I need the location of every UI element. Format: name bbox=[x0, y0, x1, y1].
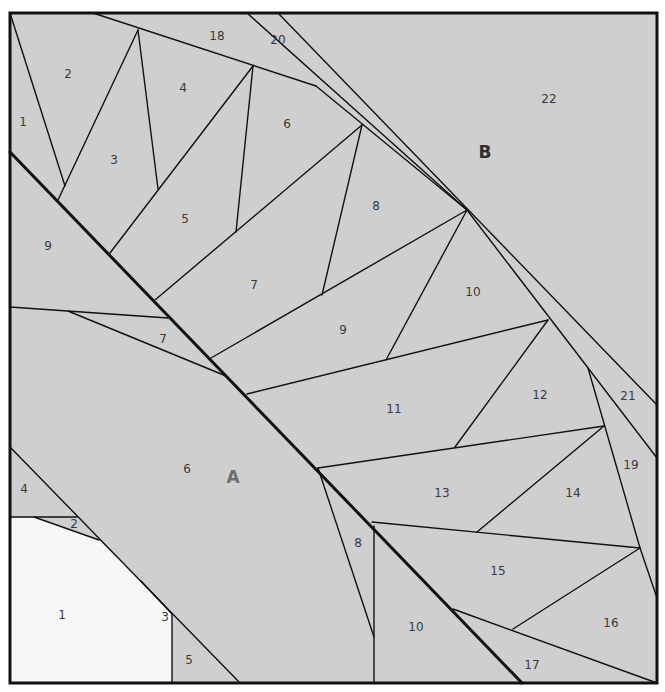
piece-label-b4: 4 bbox=[179, 81, 187, 95]
piece-label-a2: 2 bbox=[70, 517, 78, 531]
piece-label-a8: 8 bbox=[354, 536, 362, 550]
piece-label-b16: 16 bbox=[603, 616, 618, 630]
quilt-pattern-diagram: 1234567891011121314151617181920212297642… bbox=[0, 0, 665, 692]
piece-label-b14: 14 bbox=[565, 486, 580, 500]
section-label-a: A bbox=[226, 467, 240, 487]
piece-label-b18: 18 bbox=[209, 29, 224, 43]
piece-label-b2: 2 bbox=[64, 67, 72, 81]
piece-label-b6: 6 bbox=[283, 117, 291, 131]
piece-label-b1: 1 bbox=[19, 115, 27, 129]
piece-label-a5: 5 bbox=[185, 653, 193, 667]
piece-label-b11: 11 bbox=[386, 402, 401, 416]
piece-label-a9: 9 bbox=[44, 239, 52, 253]
piece-label-a4: 4 bbox=[20, 482, 28, 496]
piece-label-b12: 12 bbox=[532, 388, 547, 402]
piece-label-a1: 1 bbox=[58, 608, 66, 622]
piece-label-b9: 9 bbox=[339, 323, 347, 337]
piece-label-b20: 20 bbox=[270, 33, 285, 47]
piece-label-a10: 10 bbox=[408, 620, 423, 634]
piece-label-a6: 6 bbox=[183, 462, 191, 476]
piece-label-b19: 19 bbox=[623, 458, 638, 472]
piece-label-b15: 15 bbox=[490, 564, 505, 578]
piece-label-b21: 21 bbox=[620, 389, 635, 403]
piece-label-a3: 3 bbox=[161, 610, 169, 624]
piece-label-b5: 5 bbox=[181, 212, 189, 226]
piece-label-b3: 3 bbox=[110, 153, 118, 167]
piece-label-b13: 13 bbox=[434, 486, 449, 500]
piece-label-b10: 10 bbox=[465, 285, 480, 299]
piece-label-b22: 22 bbox=[541, 92, 556, 106]
piece-label-b7: 7 bbox=[250, 278, 258, 292]
piece-label-b8: 8 bbox=[372, 199, 380, 213]
section-label-b: B bbox=[479, 142, 492, 162]
piece-label-a7: 7 bbox=[159, 332, 167, 346]
piece-label-b17: 17 bbox=[524, 658, 539, 672]
